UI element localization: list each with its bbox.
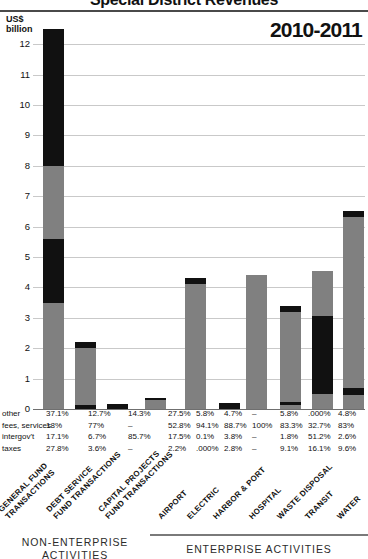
group-label-non-enterprise: NON-ENTERPRISEACTIVITIES bbox=[0, 536, 150, 559]
category-label: AIRPORT bbox=[156, 488, 189, 521]
table-cell: .000% bbox=[308, 409, 342, 418]
bar-segment bbox=[43, 239, 64, 303]
bar-column bbox=[219, 29, 240, 409]
y-axis-tick-label: 7 bbox=[4, 190, 30, 201]
y-axis-ticks: 1211109876543210 bbox=[0, 29, 30, 409]
y-axis-tick-label: 8 bbox=[4, 160, 30, 171]
group-label-line: NON-ENTERPRISE bbox=[0, 536, 150, 549]
bar-segment bbox=[343, 388, 364, 395]
bar-segment bbox=[280, 306, 301, 312]
table-cell: 85.7% bbox=[128, 432, 162, 441]
bar-column bbox=[246, 29, 267, 409]
y-axis-tick-label: 1 bbox=[4, 373, 30, 384]
bar-segment bbox=[43, 166, 64, 239]
table-row: taxes27.8%3.6%–2.2%.000%2.8%–9.1%16.1%9.… bbox=[0, 444, 368, 456]
table-cell: 14.3% bbox=[128, 409, 162, 418]
bar-segment bbox=[246, 275, 267, 409]
bar-segment bbox=[75, 348, 96, 405]
y-axis-unit-line1: US$ bbox=[6, 14, 46, 24]
table-row: other37.1%12.7%14.3%27.5%5.8%4.7%–5.8%.0… bbox=[0, 409, 368, 421]
bar-segment bbox=[280, 402, 301, 405]
table-row-label: taxes bbox=[2, 444, 46, 453]
bar-segment bbox=[343, 217, 364, 388]
group-label-enterprise: ENTERPRISE ACTIVITIES bbox=[150, 543, 368, 556]
table-cell: 6.7% bbox=[88, 432, 122, 441]
bar-segment bbox=[43, 29, 64, 166]
table-row-label: intergov't bbox=[2, 432, 46, 441]
table-cell: 51.2% bbox=[308, 432, 342, 441]
table-cell: 4.8% bbox=[338, 409, 368, 418]
bar-segment bbox=[343, 211, 364, 217]
group-label-line: ENTERPRISE ACTIVITIES bbox=[150, 543, 368, 556]
bar-column bbox=[343, 29, 364, 409]
table-cell: 32.7% bbox=[308, 421, 342, 430]
table-cell: 18% bbox=[46, 421, 80, 430]
y-axis-tick-label: 2 bbox=[4, 342, 30, 353]
group-label-line: ACTIVITIES bbox=[0, 549, 150, 559]
category-label: WATER bbox=[335, 494, 362, 521]
bar-segment bbox=[75, 342, 96, 348]
table-cell: 17.1% bbox=[46, 432, 80, 441]
table-row-label: other bbox=[2, 409, 46, 418]
plot-area bbox=[33, 29, 365, 409]
y-axis-tick-label: 12 bbox=[4, 38, 30, 49]
table-cell: – bbox=[128, 421, 162, 430]
y-axis-tick-label: 5 bbox=[4, 251, 30, 262]
bar-segment bbox=[312, 316, 333, 394]
page-title: Special District Revenues bbox=[0, 0, 368, 9]
bar-column bbox=[312, 29, 333, 409]
bar-column bbox=[280, 29, 301, 409]
group-rule-right bbox=[150, 534, 368, 536]
bar-segment bbox=[312, 271, 333, 317]
bar-segment bbox=[185, 278, 206, 284]
bar-segment bbox=[145, 400, 166, 409]
y-axis-tick-label: 11 bbox=[4, 69, 30, 80]
bar-segment bbox=[280, 312, 301, 402]
y-axis-tick-label: 6 bbox=[4, 221, 30, 232]
y-axis-tick-label: 3 bbox=[4, 312, 30, 323]
bar-segment bbox=[185, 284, 206, 409]
chart-root: Special District Revenues US$ billion 20… bbox=[0, 0, 368, 559]
bar-segment bbox=[145, 398, 166, 400]
bar-column bbox=[145, 29, 166, 409]
data-table: other37.1%12.7%14.3%27.5%5.8%4.7%–5.8%.0… bbox=[0, 409, 368, 455]
table-row: fees, services18%77%–52.8%94.1%88.7%100%… bbox=[0, 421, 368, 433]
table-cell: 12.7% bbox=[88, 409, 122, 418]
bar-column bbox=[43, 29, 64, 409]
category-label-line: AIRPORT bbox=[156, 488, 189, 521]
table-cell: 2.6% bbox=[338, 432, 368, 441]
category-labels: GENERAL FUNDTRANSACTIONSDEBT SERVICEFUND… bbox=[0, 455, 368, 525]
bar-segment bbox=[43, 303, 64, 409]
bar-column bbox=[75, 29, 96, 409]
table-cell: 83% bbox=[338, 421, 368, 430]
table-cell: 9.6% bbox=[338, 444, 368, 453]
bar-segment bbox=[343, 395, 364, 409]
y-axis-tick-label: 10 bbox=[4, 99, 30, 110]
table-row-label: fees, services bbox=[2, 421, 46, 430]
title-divider bbox=[0, 10, 368, 12]
y-axis-tick-label: 4 bbox=[4, 281, 30, 292]
bar-column bbox=[107, 29, 128, 409]
bar-column bbox=[185, 29, 206, 409]
bar-segment bbox=[312, 394, 333, 409]
table-cell: 27.8% bbox=[46, 444, 80, 453]
table-cell: 77% bbox=[88, 421, 122, 430]
table-cell: 37.1% bbox=[46, 409, 80, 418]
y-axis-tick-label: 9 bbox=[4, 129, 30, 140]
table-row: intergov't17.1%6.7%85.7%17.5%0.1%3.8%–1.… bbox=[0, 432, 368, 444]
table-cell: 16.1% bbox=[308, 444, 342, 453]
category-label-line: WATER bbox=[335, 494, 362, 521]
